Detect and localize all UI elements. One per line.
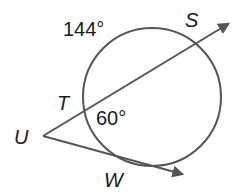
point-label-W: W — [104, 169, 125, 191]
point-label-S: S — [185, 9, 199, 31]
secant-ray-US — [43, 24, 228, 136]
point-label-U: U — [14, 126, 29, 148]
geometry-diagram: 144° S T 60° U W — [0, 0, 243, 194]
arc-label-144: 144° — [63, 18, 104, 40]
circle — [83, 28, 221, 166]
point-label-T: T — [57, 92, 71, 114]
arc-label-60: 60° — [96, 107, 126, 129]
